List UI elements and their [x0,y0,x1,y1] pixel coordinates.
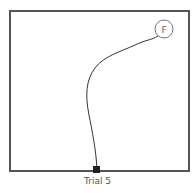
trial-diagram: F [0,0,195,193]
goal-label: F [161,25,166,35]
trajectory-path [87,36,158,169]
start-marker [93,166,100,173]
figure-caption: Trial 5 [0,176,195,186]
